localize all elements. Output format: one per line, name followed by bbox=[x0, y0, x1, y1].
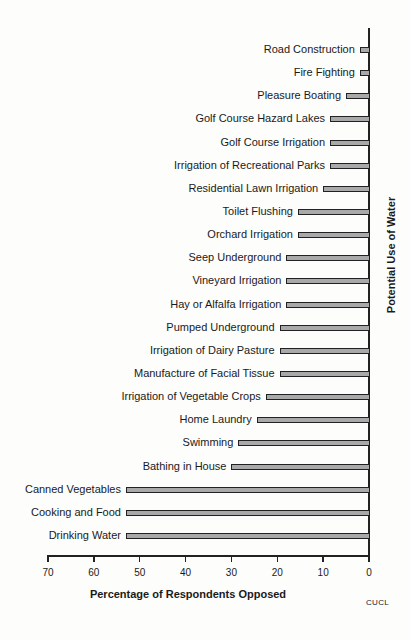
x-tick bbox=[368, 555, 370, 562]
category-label: Residential Lawn Irrigation bbox=[189, 182, 319, 195]
bar bbox=[298, 232, 369, 238]
bar bbox=[266, 394, 369, 400]
category-label: Irrigation of Vegetable Crops bbox=[121, 390, 260, 403]
horizontal-bar-chart: Road ConstructionFire FightingPleasure B… bbox=[0, 0, 410, 640]
category-label: Canned Vegetables bbox=[25, 483, 121, 496]
x-tick bbox=[322, 555, 324, 562]
bar bbox=[360, 70, 369, 76]
bar bbox=[286, 255, 369, 261]
category-label: Bathing in House bbox=[143, 460, 227, 473]
x-tick-label: 70 bbox=[33, 567, 63, 578]
x-tick-label: 40 bbox=[171, 567, 201, 578]
category-label: Pleasure Boating bbox=[257, 89, 341, 102]
x-tick-label: 0 bbox=[354, 567, 384, 578]
bar bbox=[330, 163, 369, 169]
category-label: Drinking Water bbox=[49, 529, 121, 542]
category-label: Fire Fighting bbox=[294, 66, 355, 79]
category-label: Cooking and Food bbox=[31, 506, 121, 519]
bar bbox=[298, 209, 369, 215]
category-label: Irrigation of Dairy Pasture bbox=[150, 344, 275, 357]
category-label: Seep Underground bbox=[189, 251, 282, 264]
x-tick-label: 10 bbox=[308, 567, 338, 578]
x-tick-label: 20 bbox=[262, 567, 292, 578]
bar bbox=[346, 93, 369, 99]
category-label: Road Construction bbox=[264, 43, 355, 56]
x-tick bbox=[231, 555, 233, 562]
bar bbox=[360, 47, 369, 53]
y-axis-line bbox=[368, 28, 370, 556]
bar bbox=[323, 186, 369, 192]
bar bbox=[280, 325, 369, 331]
bar bbox=[280, 371, 369, 377]
category-label: Toilet Flushing bbox=[223, 205, 293, 218]
bar bbox=[126, 533, 369, 539]
bar bbox=[231, 464, 369, 470]
bar bbox=[126, 487, 369, 493]
bar bbox=[280, 348, 369, 354]
x-tick bbox=[277, 555, 279, 562]
x-tick bbox=[93, 555, 95, 562]
x-tick bbox=[185, 555, 187, 562]
y-axis-title: Potential Use of Water bbox=[385, 197, 397, 313]
x-tick bbox=[139, 555, 141, 562]
category-label: Golf Course Irrigation bbox=[220, 136, 325, 149]
credit-label: CUCL bbox=[366, 598, 389, 607]
bar bbox=[126, 510, 369, 516]
bar bbox=[238, 440, 369, 446]
x-tick-label: 60 bbox=[79, 567, 109, 578]
bar bbox=[330, 140, 369, 146]
bar bbox=[286, 302, 369, 308]
bar bbox=[286, 278, 369, 284]
category-label: Vineyard Irrigation bbox=[192, 274, 281, 287]
bar bbox=[330, 116, 369, 122]
x-tick-label: 30 bbox=[216, 567, 246, 578]
category-label: Orchard Irrigation bbox=[207, 228, 293, 241]
bar bbox=[257, 417, 369, 423]
category-label: Golf Course Hazard Lakes bbox=[195, 112, 325, 125]
x-axis-title: Percentage of Respondents Opposed bbox=[58, 588, 318, 600]
category-label: Home Laundry bbox=[180, 413, 252, 426]
category-label: Manufacture of Facial Tissue bbox=[134, 367, 275, 380]
category-label: Hay or Alfalfa Irrigation bbox=[170, 298, 281, 311]
x-tick bbox=[47, 555, 49, 562]
category-label: Swimming bbox=[183, 436, 234, 449]
x-tick-label: 50 bbox=[125, 567, 155, 578]
category-label: Irrigation of Recreational Parks bbox=[174, 159, 325, 172]
category-label: Pumped Underground bbox=[166, 321, 274, 334]
